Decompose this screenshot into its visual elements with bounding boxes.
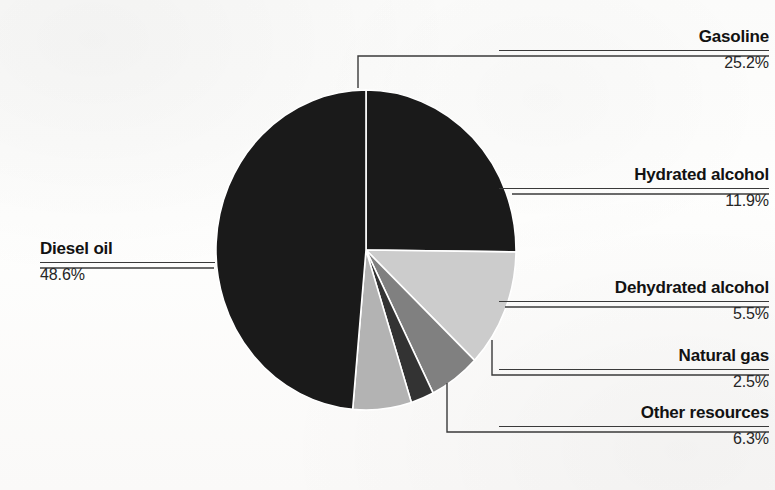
pie-slice-group xyxy=(216,90,516,410)
callout-hydrated-alcohol-name: Hydrated alcohol xyxy=(499,165,769,185)
callout-dehydrated-alcohol-name: Dehydrated alcohol xyxy=(499,278,769,298)
callout-diesel-oil-value: 48.6% xyxy=(40,265,215,284)
callout-diesel-oil-name: Diesel oil xyxy=(40,239,215,259)
callout-hydrated-alcohol: Hydrated alcohol 11.9% xyxy=(499,165,769,210)
callout-other-resources: Other resources 6.3% xyxy=(499,403,769,448)
callout-diesel-oil: Diesel oil 48.6% xyxy=(40,239,215,284)
pie-slice-diesel-oil xyxy=(216,90,366,409)
callout-dehydrated-alcohol-rule xyxy=(499,301,769,302)
callout-natural-gas-name: Natural gas xyxy=(499,346,769,366)
callout-gasoline: Gasoline 25.2% xyxy=(499,27,769,72)
callout-natural-gas-rule xyxy=(499,369,769,370)
callout-dehydrated-alcohol: Dehydrated alcohol 5.5% xyxy=(499,278,769,323)
callout-natural-gas: Natural gas 2.5% xyxy=(499,346,769,391)
pie-chart-figure: Gasoline 25.2% Hydrated alcohol 11.9% De… xyxy=(0,0,775,490)
callout-natural-gas-value: 2.5% xyxy=(499,372,769,391)
callout-gasoline-value: 25.2% xyxy=(499,53,769,72)
callout-other-resources-name: Other resources xyxy=(499,403,769,423)
callout-gasoline-rule xyxy=(499,50,769,51)
callout-other-resources-rule xyxy=(499,426,769,427)
callout-diesel-oil-rule xyxy=(40,262,215,263)
callout-dehydrated-alcohol-value: 5.5% xyxy=(499,304,769,323)
callout-hydrated-alcohol-value: 11.9% xyxy=(499,191,769,210)
callout-other-resources-value: 6.3% xyxy=(499,429,769,448)
callout-hydrated-alcohol-rule xyxy=(499,188,769,189)
pie-slice-gasoline xyxy=(366,90,516,252)
callout-gasoline-name: Gasoline xyxy=(499,27,769,47)
